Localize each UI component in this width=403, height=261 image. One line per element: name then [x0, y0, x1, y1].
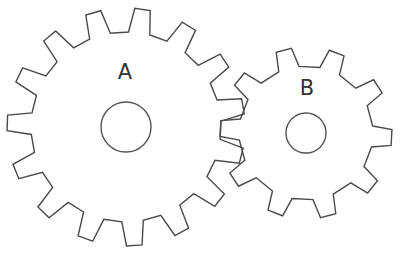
gear-b-outline: [220, 48, 392, 218]
gear-diagram: [0, 0, 403, 261]
gear-a-axle-hole: [101, 102, 151, 152]
gear-b: [220, 48, 392, 218]
gear-a-label: A: [118, 62, 132, 83]
gear-a: [7, 8, 244, 246]
gear-b-label: B: [300, 78, 314, 99]
gear-b-axle-hole: [286, 113, 326, 153]
gear-a-outline: [7, 8, 244, 246]
